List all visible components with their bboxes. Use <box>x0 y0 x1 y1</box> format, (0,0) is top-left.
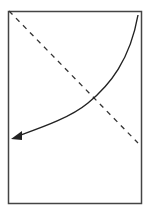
dashed-diagonal-line <box>9 11 138 143</box>
arrowhead-icon <box>11 131 22 140</box>
curved-arrow-line <box>18 15 138 136</box>
frame-rectangle <box>9 12 142 204</box>
diagram <box>0 0 151 212</box>
